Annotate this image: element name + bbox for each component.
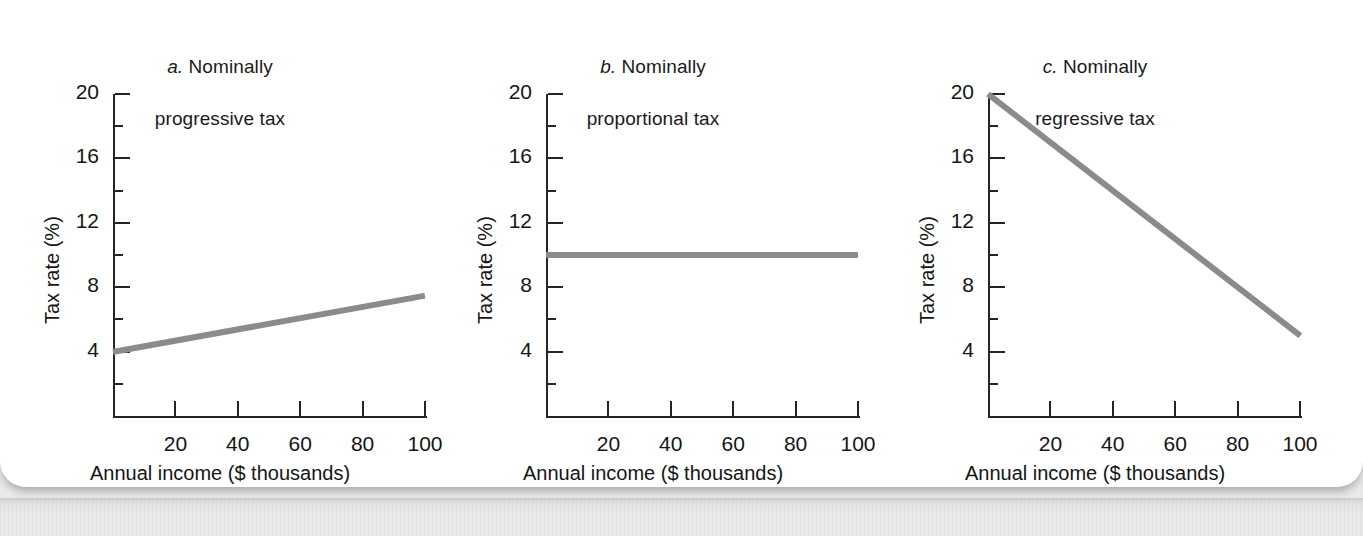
x-axis-tick	[732, 401, 734, 416]
y-axis-minor-tick	[990, 383, 998, 385]
y-axis-tick	[990, 222, 1005, 224]
y-axis-tick-label: 4	[492, 338, 532, 362]
panel-b-plot: 4812162020406080100Annual income ($ thou…	[433, 0, 873, 501]
y-axis-tick-label: 4	[59, 338, 99, 362]
y-axis-line	[988, 94, 990, 418]
x-axis-tick-label: 80	[766, 432, 826, 456]
y-axis-minor-tick	[548, 190, 556, 192]
y-axis-minor-tick	[548, 125, 556, 127]
y-axis-tick-label: 8	[934, 273, 974, 297]
y-axis-minor-tick	[990, 318, 998, 320]
x-axis-tick-label: 40	[641, 432, 701, 456]
y-axis-tick-label: 20	[934, 80, 974, 104]
y-axis-tick-label: 12	[934, 209, 974, 233]
y-axis-tick	[990, 286, 1005, 288]
y-axis-tick-label: 12	[59, 209, 99, 233]
y-axis-title: Tax rate (%)	[474, 216, 497, 324]
y-axis-title: Tax rate (%)	[41, 216, 64, 324]
x-axis-tick	[237, 401, 239, 416]
y-axis-minor-tick	[990, 125, 998, 127]
x-axis-tick	[1049, 401, 1051, 416]
x-axis-tick-label: 20	[1020, 432, 1080, 456]
x-axis-tick-label: 80	[333, 432, 393, 456]
y-axis-tick	[115, 157, 130, 159]
x-axis-line	[546, 416, 860, 418]
y-axis-tick	[548, 286, 563, 288]
x-axis-tick-label: 80	[1208, 432, 1268, 456]
y-axis-minor-tick	[990, 190, 998, 192]
chart-panel-c: c. Nominally regressive tax 481216202040…	[875, 0, 1315, 501]
series-line	[112, 292, 425, 354]
y-axis-tick-label: 4	[934, 338, 974, 362]
y-axis-minor-tick	[115, 254, 123, 256]
y-axis-line	[113, 94, 115, 418]
x-axis-title: Annual income ($ thousands)	[875, 462, 1315, 485]
y-axis-tick-label: 16	[934, 144, 974, 168]
y-axis-title: Tax rate (%)	[916, 216, 939, 324]
x-axis-tick	[1237, 401, 1239, 416]
y-axis-tick-label: 20	[59, 80, 99, 104]
y-axis-minor-tick	[548, 383, 556, 385]
y-axis-minor-tick	[548, 318, 556, 320]
y-axis-minor-tick	[115, 383, 123, 385]
x-axis-tick-label: 40	[1083, 432, 1143, 456]
x-axis-tick-label: 100	[1270, 432, 1330, 456]
y-axis-minor-tick	[115, 125, 123, 127]
x-axis-line	[113, 416, 427, 418]
y-axis-tick-label: 16	[492, 144, 532, 168]
series-line	[986, 92, 1302, 338]
page-gutter	[0, 498, 1363, 536]
x-axis-tick-label: 60	[1145, 432, 1205, 456]
y-axis-tick	[548, 157, 563, 159]
x-axis-tick	[1299, 401, 1301, 416]
y-axis-tick	[548, 93, 563, 95]
x-axis-tick-label: 20	[145, 432, 205, 456]
x-axis-tick	[174, 401, 176, 416]
x-axis-tick-label: 60	[703, 432, 763, 456]
x-axis-tick	[857, 401, 859, 416]
x-axis-tick	[362, 401, 364, 416]
y-axis-tick-label: 16	[59, 144, 99, 168]
x-axis-line	[988, 416, 1302, 418]
y-axis-minor-tick	[990, 254, 998, 256]
y-axis-tick	[115, 93, 130, 95]
y-axis-minor-tick	[115, 190, 123, 192]
x-axis-tick	[1112, 401, 1114, 416]
y-axis-tick	[548, 222, 563, 224]
y-axis-tick	[990, 157, 1005, 159]
y-axis-tick	[115, 286, 130, 288]
x-axis-tick	[607, 401, 609, 416]
x-axis-tick	[795, 401, 797, 416]
y-axis-tick	[990, 351, 1005, 353]
chart-panel-a: a. Nominally progressive tax 48121620204…	[0, 0, 440, 501]
x-axis-tick	[424, 401, 426, 416]
y-axis-tick-label: 12	[492, 209, 532, 233]
y-axis-minor-tick	[115, 318, 123, 320]
x-axis-tick	[670, 401, 672, 416]
y-axis-tick-label: 8	[492, 273, 532, 297]
panel-c-plot: 4812162020406080100Annual income ($ thou…	[875, 0, 1315, 501]
x-axis-tick-label: 40	[208, 432, 268, 456]
x-axis-tick	[299, 401, 301, 416]
series-line	[546, 252, 858, 258]
y-axis-tick	[115, 222, 130, 224]
chart-panel-b: b. Nominally proportional tax 4812162020…	[433, 0, 873, 501]
x-axis-tick-label: 20	[578, 432, 638, 456]
x-axis-tick-label: 60	[270, 432, 330, 456]
panel-a-plot: 4812162020406080100Annual income ($ thou…	[0, 0, 440, 501]
y-axis-tick-label: 20	[492, 80, 532, 104]
y-axis-tick-label: 8	[59, 273, 99, 297]
y-axis-tick	[548, 351, 563, 353]
x-axis-title: Annual income ($ thousands)	[0, 462, 440, 485]
x-axis-tick	[1174, 401, 1176, 416]
x-axis-title: Annual income ($ thousands)	[433, 462, 873, 485]
